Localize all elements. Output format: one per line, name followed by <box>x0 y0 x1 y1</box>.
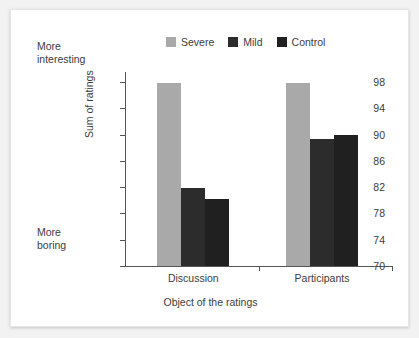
annotation-more-boring-line2: boring <box>37 239 107 252</box>
y-tick-label-74: 74 <box>365 234 385 246</box>
legend-label-control: Control <box>292 36 326 48</box>
legend-label-severe: Severe <box>181 36 214 48</box>
bar-control-participants <box>334 135 358 266</box>
y-tick-mark-70 <box>120 266 125 267</box>
annotation-more-boring: More boring <box>37 226 107 252</box>
y-tick-label-90: 90 <box>365 129 385 141</box>
bar-control-discussion <box>205 199 229 266</box>
legend-swatch-mild <box>228 37 238 47</box>
figure-card: Severe Mild Control More interesting Mor… <box>10 9 409 327</box>
y-tick-label-98: 98 <box>365 76 385 88</box>
x-axis-end-tick <box>392 266 393 271</box>
x-axis-label-participants: Participants <box>295 272 350 284</box>
y-tick-mark-74 <box>120 240 125 241</box>
annotation-more-interesting-line2: interesting <box>37 53 107 66</box>
y-axis-title: Sum of ratings <box>83 70 95 138</box>
legend-swatch-severe <box>166 37 176 47</box>
y-tick-mark-82 <box>120 187 125 188</box>
legend-item-control: Control <box>277 36 326 48</box>
x-axis-mid-tick <box>259 266 260 271</box>
y-tick-mark-90 <box>120 135 125 136</box>
annotation-more-boring-line1: More <box>37 226 107 239</box>
y-tick-label-82: 82 <box>365 181 385 193</box>
y-tick-label-78: 78 <box>365 207 385 219</box>
y-tick-label-86: 86 <box>365 155 385 167</box>
y-tick-label-70: 70 <box>365 260 385 272</box>
x-axis-label-discussion: Discussion <box>168 272 219 284</box>
x-axis-title: Object of the ratings <box>11 296 410 308</box>
bar-chart: Severe Mild Control More interesting Mor… <box>11 10 410 328</box>
legend-label-mild: Mild <box>243 36 262 48</box>
chart-legend: Severe Mild Control <box>166 36 325 48</box>
y-axis-line <box>125 72 126 267</box>
annotation-more-interesting: More interesting <box>37 40 107 66</box>
y-tick-mark-78 <box>120 213 125 214</box>
plot-axes: 7074788286909498 DiscussionParticipants <box>125 72 393 267</box>
y-tick-mark-94 <box>120 108 125 109</box>
legend-item-severe: Severe <box>166 36 214 48</box>
y-tick-mark-86 <box>120 161 125 162</box>
annotation-more-interesting-line1: More <box>37 40 107 53</box>
bar-mild-participants <box>310 139 334 266</box>
legend-item-mild: Mild <box>228 36 262 48</box>
bar-severe-discussion <box>157 83 181 266</box>
y-tick-mark-98 <box>120 82 125 83</box>
legend-swatch-control <box>277 37 287 47</box>
bar-severe-participants <box>286 83 310 266</box>
bar-mild-discussion <box>181 188 205 266</box>
y-tick-label-94: 94 <box>365 102 385 114</box>
